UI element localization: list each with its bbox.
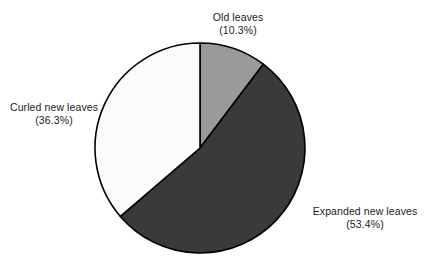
slice-label-curled-new-leaves-percent: (36.3%): [2, 114, 106, 127]
pie-chart-figure: Old leaves (10.3%) Expanded new leaves (…: [0, 0, 424, 278]
pie-slices-group: [95, 43, 305, 253]
pie-chart-canvas: [0, 0, 424, 278]
slice-label-expanded-new-leaves-name: Expanded new leaves: [300, 205, 424, 218]
slice-label-old-leaves-name: Old leaves: [168, 11, 308, 24]
slice-label-old-leaves: Old leaves (10.3%): [168, 11, 308, 37]
slice-label-expanded-new-leaves-percent: (53.4%): [300, 218, 424, 231]
slice-label-curled-new-leaves: Curled new leaves (36.3%): [2, 101, 106, 127]
slice-label-expanded-new-leaves: Expanded new leaves (53.4%): [300, 205, 424, 231]
slice-label-curled-new-leaves-name: Curled new leaves: [2, 101, 106, 114]
slice-label-old-leaves-percent: (10.3%): [168, 24, 308, 37]
